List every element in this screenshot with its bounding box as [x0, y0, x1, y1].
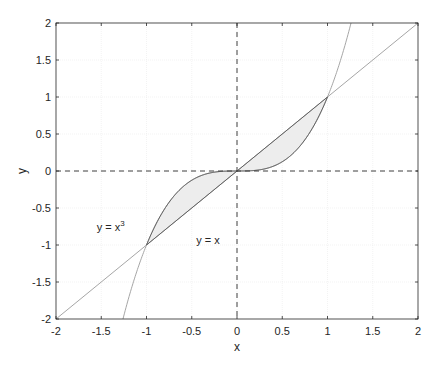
x-tick-label: 0.5 — [275, 325, 290, 337]
annotation-linear: y = x — [196, 234, 220, 246]
y-tick-label: -0.5 — [32, 202, 51, 214]
x-tick-label: 1.5 — [365, 325, 380, 337]
y-tick-label: -1 — [41, 239, 51, 251]
chart: -2-1.5-1-0.500.511.52 -2-1.5-1-0.500.511… — [0, 0, 438, 371]
y-tick-label: 0.5 — [36, 128, 51, 140]
y-tick-label: 0 — [45, 165, 51, 177]
annotation-cubic: y = x3 — [97, 219, 126, 233]
x-tick-labels: -2-1.5-1-0.500.511.52 — [51, 325, 421, 337]
y-tick-label: -2 — [41, 313, 51, 325]
y-tick-label: 1 — [45, 91, 51, 103]
x-tick-label: -2 — [51, 325, 61, 337]
annotation-cubic-base: y = x — [97, 221, 121, 233]
y-axis-label: y — [15, 168, 29, 174]
x-tick-label: -1.5 — [92, 325, 111, 337]
x-tick-label: -0.5 — [182, 325, 201, 337]
y-tick-label: 2 — [45, 17, 51, 29]
y-tick-label: 1.5 — [36, 54, 51, 66]
x-tick-label: -1 — [142, 325, 152, 337]
x-axis-label: x — [234, 340, 240, 354]
annotation-cubic-exponent: 3 — [120, 219, 125, 228]
x-tick-label: 0 — [234, 325, 240, 337]
x-tick-label: 2 — [415, 325, 421, 337]
y-tick-labels: -2-1.5-1-0.500.511.52 — [32, 17, 51, 325]
x-tick-label: 1 — [324, 325, 330, 337]
y-tick-label: -1.5 — [32, 276, 51, 288]
